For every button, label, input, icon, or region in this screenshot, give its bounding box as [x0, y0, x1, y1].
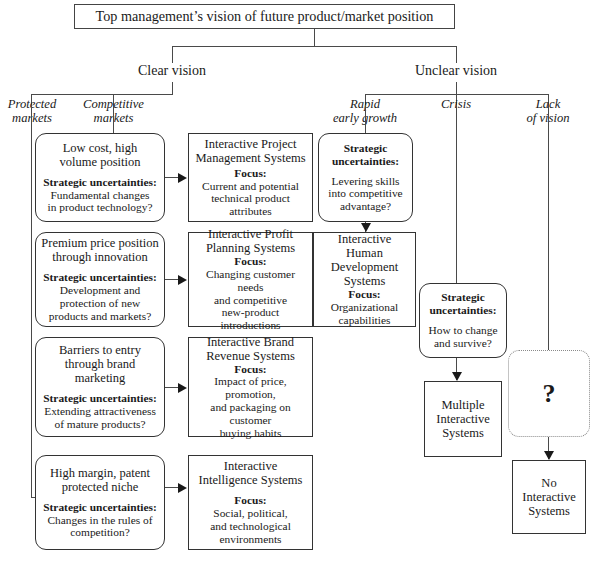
sub-label-protected-line2: markets — [0, 111, 64, 125]
connector-clear-stem — [172, 82, 173, 94]
box-title-line1: Interactive Profit — [208, 227, 293, 241]
strategic-uncertainties-label-line2: uncertainties: — [429, 304, 496, 317]
box-body-line3: products and markets? — [49, 310, 151, 323]
box-body-line1: Levering skills — [331, 175, 399, 188]
connector-rapid-stem — [365, 105, 366, 133]
sub-label-protected-line1: Protected — [0, 97, 64, 111]
box-interactive-intelligence: Interactive Intelligence Systems Focus: … — [188, 455, 313, 550]
strategic-uncertainties-label: Strategic uncertainties: — [43, 271, 157, 284]
box-body-line3: new-product introductions — [193, 306, 308, 332]
box-title-line2: Planning Systems — [206, 241, 295, 255]
box-crisis-strategic-uncertainties: Strategic uncertainties: How to change a… — [419, 283, 507, 358]
arrow-right-icon — [178, 275, 187, 285]
box-title-line1: Interactive Human — [318, 232, 411, 260]
box-title-line2: Development — [331, 260, 398, 274]
box-high-margin-patent: High margin, patent protected niche Stra… — [35, 455, 165, 550]
box-title-line1: High margin, patent — [50, 466, 150, 480]
box-body-line1: How to change — [429, 324, 498, 337]
box-body-line2: of mature products? — [54, 418, 145, 431]
box-body-line3: buying habits — [220, 427, 282, 440]
connector-protected-spine — [31, 105, 32, 497]
box-body-line1: Changing customer needs — [193, 268, 308, 294]
strategic-uncertainties-label-line2: uncertainties: — [332, 155, 399, 168]
branch-label-clear-vision: Clear vision — [112, 63, 232, 79]
arrow-down-icon — [544, 451, 554, 460]
strategic-uncertainties-label: Strategic uncertainties: — [43, 176, 157, 189]
box-body-line2: into competitive — [328, 187, 402, 200]
box-body-line2: and packaging on customer — [193, 401, 308, 427]
connector-competitive-stem — [113, 105, 114, 133]
box-title-line1: Low cost, high — [63, 141, 138, 155]
box-body-line2: capabilities — [339, 314, 391, 327]
box-title-line1: Interactive — [224, 459, 277, 473]
box-title-line2: Interactive — [522, 490, 575, 504]
box-body-line3: environments — [219, 533, 281, 546]
box-interactive-project-management: Interactive Project Management Systems F… — [188, 133, 313, 222]
box-rapid-strategic-uncertainties: Strategic uncertainties: Levering skills… — [318, 133, 413, 222]
focus-label: Focus: — [348, 288, 380, 301]
box-title-line1: Multiple — [441, 398, 484, 412]
connector-clear-drop — [172, 46, 173, 63]
connector-top-split — [172, 46, 457, 47]
box-title-line3: marketing — [75, 371, 126, 385]
box-title-line1: Premium price position — [41, 236, 158, 250]
focus-label: Focus: — [234, 167, 266, 180]
focus-label: Focus: — [234, 494, 266, 507]
box-title-line2: through brand — [65, 357, 135, 371]
box-low-cost-high-volume: Low cost, high volume position Strategic… — [35, 133, 165, 222]
strategic-uncertainties-label-line1: Strategic — [441, 291, 485, 304]
box-body-line1: Organizational — [331, 301, 398, 314]
arrow-right-icon — [178, 173, 187, 183]
box-body-line2: and technological — [210, 520, 291, 533]
box-body-line1: Impact of price, promotion, — [193, 375, 308, 401]
box-title-line3: Systems — [344, 274, 386, 288]
arrow-down-icon — [361, 223, 371, 232]
box-interactive-human-development: Interactive Human Development Systems Fo… — [313, 232, 416, 327]
strategic-uncertainties-label: Strategic uncertainties: — [43, 392, 157, 405]
box-title-line3: Systems — [528, 504, 570, 518]
box-interactive-brand-revenue: Interactive Brand Revenue Systems Focus:… — [188, 337, 313, 437]
box-title-line2: Revenue Systems — [206, 349, 295, 363]
box-barriers-to-entry: Barriers to entry through brand marketin… — [35, 337, 165, 437]
box-interactive-profit-planning: Interactive Profit Planning Systems Focu… — [188, 232, 313, 327]
branch-label-unclear-vision: Unclear vision — [396, 63, 516, 79]
box-body-line1: Changes in the rules of — [47, 514, 152, 527]
arrow-down-icon — [452, 372, 462, 381]
box-title-line2: Intelligence Systems — [199, 473, 303, 487]
box-body-line1: Current and potential — [202, 180, 299, 193]
connector-unclear-stem — [456, 82, 457, 94]
box-body-line3: advantage? — [340, 200, 391, 213]
box-body-line2: competition? — [70, 526, 129, 539]
box-body-line1: Fundamental changes — [50, 189, 149, 202]
box-body-line1: Social, political, — [213, 507, 287, 520]
connector-lack-spine — [548, 105, 549, 350]
strategic-uncertainties-label: Strategic uncertainties: — [43, 501, 157, 514]
box-body-line2: and competitive — [214, 294, 287, 307]
box-no-interactive-systems: No Interactive Systems — [512, 460, 586, 534]
box-question-unknown: ? — [508, 350, 590, 437]
connector-title-stem — [314, 29, 315, 46]
strategic-uncertainties-label-line1: Strategic — [344, 142, 388, 155]
arrow-right-icon — [178, 483, 187, 493]
arrow-right-icon — [178, 383, 187, 393]
box-body-line1: Extending attractiveness — [44, 405, 156, 418]
box-premium-price-position: Premium price position through innovatio… — [35, 232, 165, 327]
vision-title-box: Top management’s vision of future produc… — [74, 4, 455, 29]
box-body-line2: in product technology? — [47, 201, 152, 214]
box-title-line2: through innovation — [52, 250, 147, 264]
question-mark-text: ? — [543, 379, 556, 408]
focus-label: Focus: — [234, 363, 266, 376]
box-multiple-interactive-systems: Multiple Interactive Systems — [424, 381, 502, 457]
diagram-canvas: Top management’s vision of future produc… — [0, 0, 597, 566]
box-title-line1: No — [541, 476, 556, 490]
connector-crisis-spine — [456, 105, 457, 283]
box-title-line1: Interactive Project — [205, 137, 297, 151]
box-title-line3: Systems — [442, 426, 484, 440]
box-title-line2: volume position — [60, 155, 141, 169]
focus-label: Focus: — [234, 255, 266, 268]
connector-unclear-drop — [456, 46, 457, 63]
sub-label-protected-markets: Protected markets — [0, 97, 64, 126]
box-body-line1: Development and — [60, 284, 141, 297]
box-title-line2: Management Systems — [195, 151, 305, 165]
box-title-line2: protected niche — [62, 480, 139, 494]
